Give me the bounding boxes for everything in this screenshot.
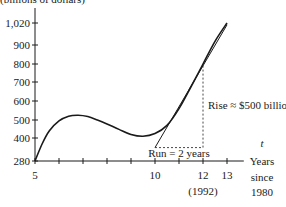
tangent-line (155, 25, 227, 148)
x-axis-variable: t (260, 137, 264, 149)
curve-line (35, 23, 227, 161)
y-tick-label: 700 (14, 76, 31, 88)
y-tick-label: 1,020 (5, 17, 30, 29)
chart-title: (billions of dollars) (0, 0, 85, 6)
x-axis-label-line: since (251, 171, 274, 183)
y-tick-label: 900 (14, 39, 31, 51)
y-tick-label: 600 (14, 95, 31, 107)
chart: 51012132804005006007008009001,020 (billi… (0, 0, 286, 207)
x-tick-sublabel: (1992) (188, 185, 218, 198)
x-tick-label: 5 (32, 169, 38, 181)
x-tick-label: 13 (222, 169, 234, 181)
marks (35, 23, 227, 161)
x-axis-label-line: 1980 (251, 186, 274, 198)
x-tick-label: 12 (198, 169, 209, 181)
x-tick-label: 10 (150, 169, 162, 181)
y-tick-label: 800 (14, 58, 31, 70)
x-axis-label-line: Years (250, 155, 275, 167)
y-tick-label: 500 (14, 114, 31, 126)
y-tick-label: 280 (14, 155, 31, 167)
rise-annotation: Rise ≈ $500 billion (208, 99, 286, 111)
run-annotation: Run = 2 years (148, 147, 210, 159)
y-tick-label: 400 (14, 132, 31, 144)
